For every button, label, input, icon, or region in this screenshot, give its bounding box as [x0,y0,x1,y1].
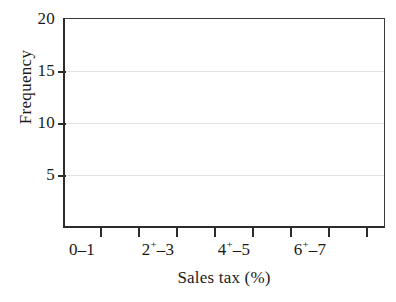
y-tick-label-10: 10 [21,114,55,131]
gridline-15 [65,71,384,72]
x-tick-mark-7 [328,228,330,237]
gridline-5 [65,175,384,176]
x-tick-mark-1 [100,228,102,237]
x-bin-label-2-3-end: 3 [166,240,175,259]
x-bin-label-6-7: 6+–7 [265,240,355,259]
x-bin-label-0-1-end: 1 [86,240,95,259]
frequency-histogram-chart: Frequency 20 15 10 5 0–1 2+–3 4+–5 6+–7 … [0,0,396,302]
x-tick-mark-5 [252,228,254,237]
plot-area [63,18,385,228]
y-tick-mark-10 [58,123,66,125]
x-tick-mark-2 [138,228,140,237]
x-tick-mark-4 [214,228,216,237]
gridline-10 [65,123,384,124]
y-tick-label-15: 15 [21,62,55,79]
x-tick-mark-8 [366,228,368,237]
x-axis-title: Sales tax (%) [63,268,385,287]
x-bin-label-0-1-main: 0 [69,240,78,259]
x-bin-label-6-7-dash: – [309,240,318,259]
y-tick-label-20: 20 [21,10,55,27]
x-tick-mark-6 [290,228,292,237]
x-bin-label-2-3-dash: – [157,240,166,259]
x-tick-mark-3 [176,228,178,237]
x-bin-label-6-7-end: 7 [318,240,327,259]
x-bin-label-4-5-end: 5 [242,240,251,259]
x-bin-label-4-5-dash: – [233,240,242,259]
y-tick-label-5: 5 [21,166,55,183]
y-tick-mark-15 [58,71,66,73]
y-tick-mark-5 [58,175,66,177]
